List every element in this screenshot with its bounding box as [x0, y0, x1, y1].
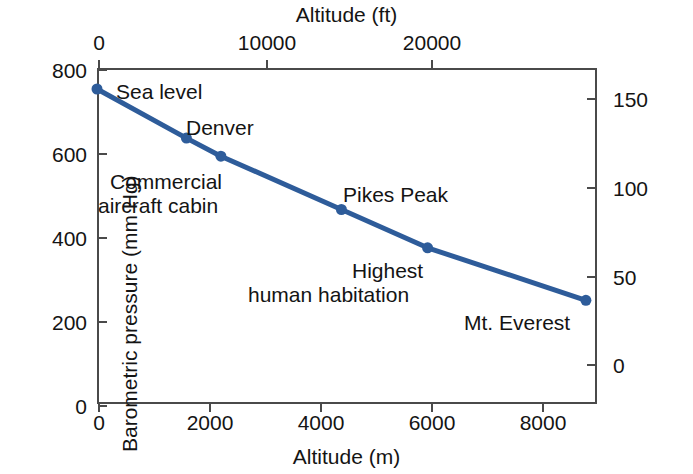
left-tick-800: [98, 69, 107, 71]
top-axis-title: Altitude (ft): [0, 4, 693, 26]
right-tick-150: [587, 98, 596, 100]
top-tick-label-0: 0: [93, 32, 105, 53]
left-tick-400: [98, 237, 107, 239]
annotation-commercial-aircraft-cabin-line2: aircraft cabin: [98, 194, 218, 218]
left-tick-label-800: 800: [31, 60, 87, 81]
right-tick-label-150: 150: [613, 89, 648, 110]
annotation-denver: Denver: [186, 116, 254, 140]
left-tick-600: [98, 153, 107, 155]
bottom-tick-label-2000: 2000: [187, 412, 234, 433]
left-tick-label-200: 200: [31, 312, 87, 333]
annotation-mt-everest: Mt. Everest: [464, 311, 570, 335]
left-tick-label-600: 600: [31, 144, 87, 165]
bottom-tick-label-4000: 4000: [298, 412, 345, 433]
right-tick-100: [587, 187, 596, 189]
left-tick-label-0: 0: [31, 396, 87, 417]
top-tick-0: [98, 60, 100, 68]
right-tick-label-0: 0: [613, 355, 625, 376]
top-tick-label-20000: 20000: [403, 32, 461, 53]
bottom-tick-label-8000: 8000: [520, 412, 567, 433]
bottom-tick-label-6000: 6000: [409, 412, 456, 433]
annotation-commercial-aircraft-cabin-line1: Commercial: [110, 170, 222, 194]
right-tick-label-50: 50: [613, 267, 636, 288]
annotation-highest-human-habitation-line1: Highest: [352, 259, 423, 283]
left-tick-0: [98, 405, 107, 407]
left-tick-label-400: 400: [31, 228, 87, 249]
top-tick-20000: [431, 60, 433, 68]
bottom-axis-title: Altitude (m): [0, 446, 693, 468]
annotation-sea-level: Sea level: [116, 80, 202, 104]
bottom-tick-label-0: 0: [93, 412, 105, 433]
plot-frame: Barometric pressure (mm Hg) Inspired PO2…: [97, 68, 597, 404]
left-tick-200: [98, 321, 107, 323]
annotation-highest-human-habitation-line2: human habitation: [248, 283, 409, 307]
top-tick-label-10000: 10000: [238, 32, 296, 53]
right-tick-0: [587, 364, 596, 366]
right-tick-50: [587, 276, 596, 278]
altitude-pressure-chart: Altitude (ft) Altitude (m) Barometric pr…: [0, 0, 693, 474]
annotation-pikes-peak: Pikes Peak: [343, 183, 448, 207]
left-axis-title: Barometric pressure (mm Hg): [119, 182, 141, 452]
top-tick-10000: [266, 60, 268, 68]
right-tick-label-100: 100: [613, 178, 648, 199]
